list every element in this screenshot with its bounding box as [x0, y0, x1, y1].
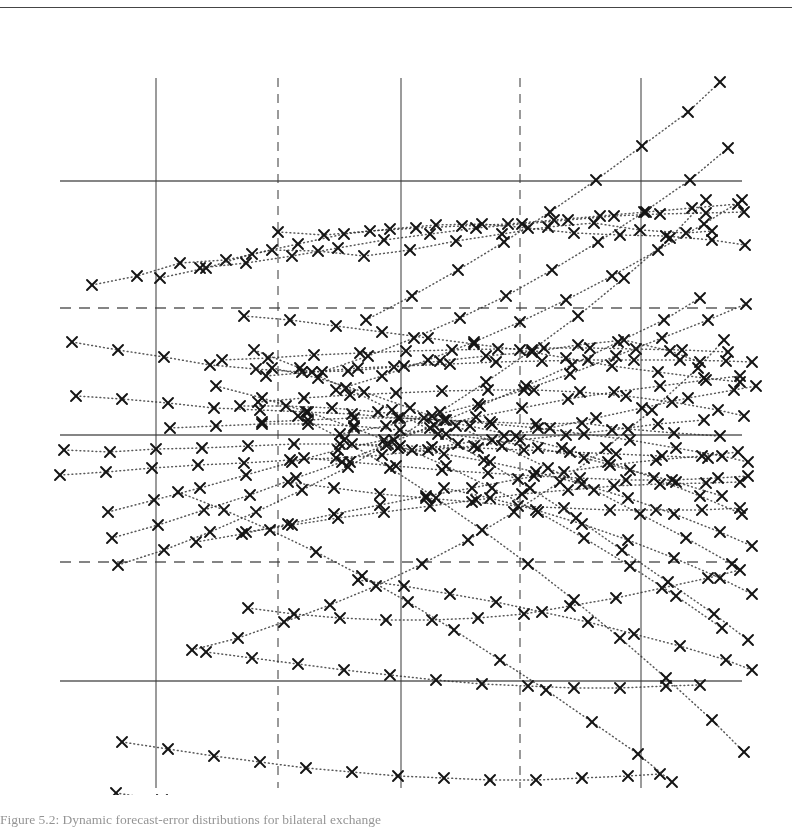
data-point-marker — [487, 483, 497, 493]
series-connector — [192, 340, 724, 650]
data-point-marker — [343, 366, 353, 376]
data-point-marker — [699, 415, 709, 425]
data-point-marker — [579, 429, 589, 439]
data-point-marker — [573, 311, 583, 321]
data-point-marker — [132, 271, 142, 281]
series-t37 — [407, 381, 761, 455]
data-point-marker — [523, 559, 533, 569]
data-point-marker — [667, 777, 677, 787]
series-connector — [266, 360, 752, 376]
data-point-marker — [241, 258, 251, 268]
data-point-marker — [361, 315, 371, 325]
data-point-marker — [517, 489, 527, 499]
data-point-marker — [583, 355, 593, 365]
data-point-marker — [715, 527, 725, 537]
data-point-marker — [699, 219, 709, 229]
data-point-marker — [615, 230, 625, 240]
top-horizontal-rule — [0, 7, 792, 8]
data-point-marker — [289, 609, 299, 619]
plot-canvas — [0, 20, 792, 795]
data-point-marker — [471, 412, 481, 422]
data-point-marker — [615, 633, 625, 643]
data-point-marker — [237, 529, 247, 539]
series-connector — [248, 570, 740, 620]
scatter-plot-figure — [0, 20, 792, 795]
data-point-marker — [665, 346, 675, 356]
data-point-marker — [579, 533, 589, 543]
data-point-marker — [541, 685, 551, 695]
data-point-marker — [107, 533, 117, 543]
data-point-marker — [723, 347, 733, 357]
data-point-marker — [325, 600, 335, 610]
data-point-marker — [249, 345, 259, 355]
data-point-marker — [681, 533, 691, 543]
series-t10 — [187, 335, 729, 655]
data-point-marker — [293, 239, 303, 249]
data-point-marker — [669, 509, 679, 519]
data-point-marker — [491, 357, 501, 367]
data-point-marker — [211, 421, 221, 431]
data-point-marker — [675, 641, 685, 651]
data-point-marker — [417, 559, 427, 569]
data-point-marker — [407, 291, 417, 301]
data-point-marker — [707, 715, 717, 725]
data-point-marker — [747, 541, 757, 551]
data-point-marker — [715, 431, 725, 441]
data-point-marker — [617, 545, 627, 555]
data-point-marker — [721, 655, 731, 665]
data-point-marker — [153, 520, 163, 530]
data-point-marker — [751, 381, 761, 391]
data-point-marker — [405, 245, 415, 255]
series-connector — [116, 793, 470, 795]
data-point-marker — [241, 470, 251, 480]
series-t29 — [173, 487, 677, 787]
data-point-marker — [653, 245, 663, 255]
data-point-marker — [589, 485, 599, 495]
data-point-marker — [743, 635, 753, 645]
data-point-marker — [695, 293, 705, 303]
data-point-marker — [743, 457, 753, 467]
data-point-marker — [363, 351, 373, 361]
series-connector — [206, 652, 700, 688]
data-point-marker — [723, 143, 733, 153]
data-point-marker — [371, 581, 381, 591]
data-point-marker — [629, 629, 639, 639]
grid-lines — [60, 78, 742, 788]
data-point-marker — [685, 175, 695, 185]
data-point-marker — [623, 535, 633, 545]
data-point-marker — [611, 351, 621, 361]
data-point-marker — [719, 335, 729, 345]
data-point-marker — [477, 525, 487, 535]
data-point-marker — [103, 507, 113, 517]
data-point-marker — [67, 337, 77, 347]
data-point-marker — [331, 385, 341, 395]
data-point-marker — [297, 485, 307, 495]
series-t39 — [439, 483, 757, 599]
data-point-marker — [703, 573, 713, 583]
data-point-marker — [193, 460, 203, 470]
data-point-marker — [509, 507, 519, 517]
data-point-marker — [197, 443, 207, 453]
data-point-marker — [713, 405, 723, 415]
data-point-marker — [741, 299, 751, 309]
data-point-marker — [577, 519, 587, 529]
data-point-marker — [113, 345, 123, 355]
data-point-marker — [623, 493, 633, 503]
data-point-marker — [611, 593, 621, 603]
data-point-marker — [195, 483, 205, 493]
data-point-marker — [543, 463, 553, 473]
data-point-marker — [453, 265, 463, 275]
figure-caption: Figure 5.2: Dynamic forecast-error distr… — [0, 812, 792, 831]
data-point-marker — [173, 487, 183, 497]
data-point-marker — [635, 509, 645, 519]
data-point-marker — [665, 233, 675, 243]
data-point-marker — [455, 313, 465, 323]
series-t34 — [317, 143, 733, 377]
data-point-marker — [219, 505, 229, 515]
data-point-marker — [265, 525, 275, 535]
data-point-marker — [409, 333, 419, 343]
data-point-marker — [87, 280, 97, 290]
data-point-marker — [735, 565, 745, 575]
data-point-marker — [591, 175, 601, 185]
series-connector — [222, 348, 728, 360]
